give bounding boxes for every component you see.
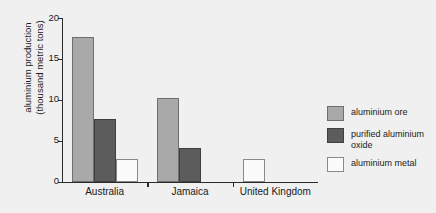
x-axis-line — [62, 182, 318, 183]
y-tick-label: 0 — [54, 175, 59, 186]
bar — [157, 98, 179, 181]
bar-chart: aluminium production (thousand metric to… — [0, 0, 436, 213]
legend-swatch-ore — [327, 106, 344, 121]
legend-item[interactable]: aluminium metal — [327, 157, 435, 172]
y-tick-label: 5 — [54, 134, 59, 145]
y-axis-title: aluminium production (thousand metric to… — [22, 0, 45, 153]
bar — [243, 159, 265, 182]
legend-swatch-oxide — [327, 128, 344, 143]
y-tick-label: 10 — [48, 93, 59, 104]
legend-item[interactable]: aluminium ore — [327, 106, 435, 121]
x-tick-mark — [233, 183, 234, 187]
category-label: Australia — [85, 186, 124, 197]
plot-area: 05101520 AustraliaJamaicaUnited Kingdom — [62, 18, 318, 183]
bar — [94, 119, 116, 181]
y-tick-label: 20 — [48, 12, 59, 23]
category-label: United Kingdom — [240, 186, 311, 197]
bar — [116, 159, 138, 182]
y-axis-line — [62, 18, 63, 183]
legend: aluminium orepurified aluminium oxidealu… — [327, 106, 435, 179]
bar — [179, 148, 201, 182]
legend-label: aluminium metal — [351, 157, 417, 169]
legend-swatch-metal — [327, 157, 344, 172]
legend-label: aluminium ore — [351, 106, 408, 118]
bar — [72, 37, 94, 182]
category-label: Jamaica — [171, 186, 208, 197]
legend-label: purified aluminium oxide — [351, 128, 424, 150]
x-tick-mark — [147, 183, 148, 187]
legend-item[interactable]: purified aluminium oxide — [327, 128, 435, 150]
y-tick-label: 15 — [48, 52, 59, 63]
